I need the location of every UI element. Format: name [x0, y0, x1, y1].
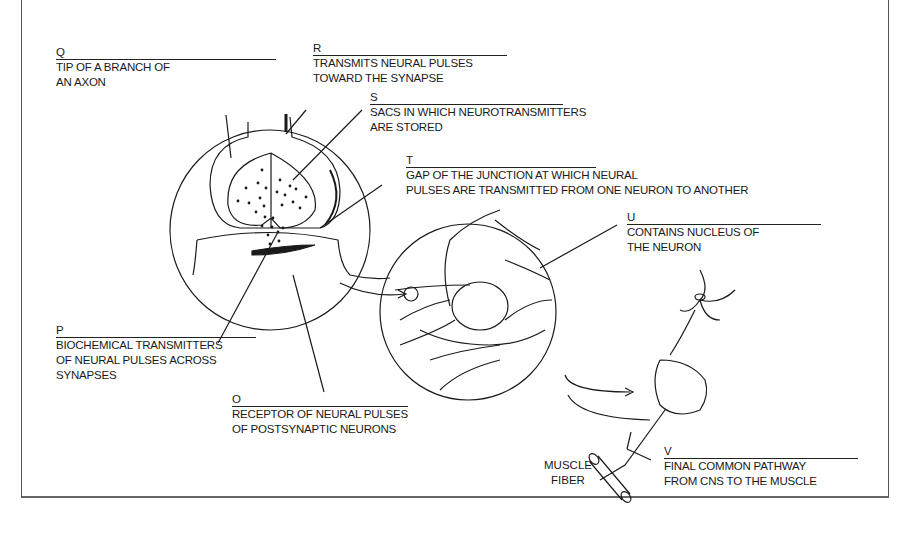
label-u: U CONTAINS NUCLEUS OF THE NEURON [627, 211, 821, 255]
label-s-letter: S [370, 91, 563, 105]
label-t-letter: T [406, 154, 596, 168]
muscle-fiber-label: MUSCLE FIBER [538, 458, 598, 488]
synapse-circle [170, 114, 390, 330]
label-v-letter: V [664, 445, 858, 459]
label-r: R TRANSMITS NEURAL PULSES TOWARD THE SYN… [313, 42, 507, 86]
label-r-letter: R [313, 42, 507, 56]
label-u-letter: U [627, 211, 821, 225]
label-v: V FINAL COMMON PATHWAY FROM CNS TO THE M… [664, 445, 858, 489]
connector-arrow [340, 283, 404, 295]
label-s: S SACS IN WHICH NEUROTRANSMITTERS ARE ST… [370, 91, 563, 135]
label-q: Q TIP OF A BRANCH OF AN AXON [56, 46, 276, 90]
label-p-letter: P [56, 324, 256, 338]
neuron-circle [380, 210, 556, 400]
label-o: O RECEPTOR OF NEURAL PULSES OF POSTSYNAP… [232, 393, 408, 437]
label-o-letter: O [232, 393, 408, 407]
label-p: P BIOCHEMICAL TRANSMITTERS OF NEURAL PUL… [56, 324, 256, 383]
label-t: T GAP OF THE JUNCTION AT WHICH NEURAL PU… [406, 154, 596, 198]
label-q-letter: Q [56, 46, 276, 60]
